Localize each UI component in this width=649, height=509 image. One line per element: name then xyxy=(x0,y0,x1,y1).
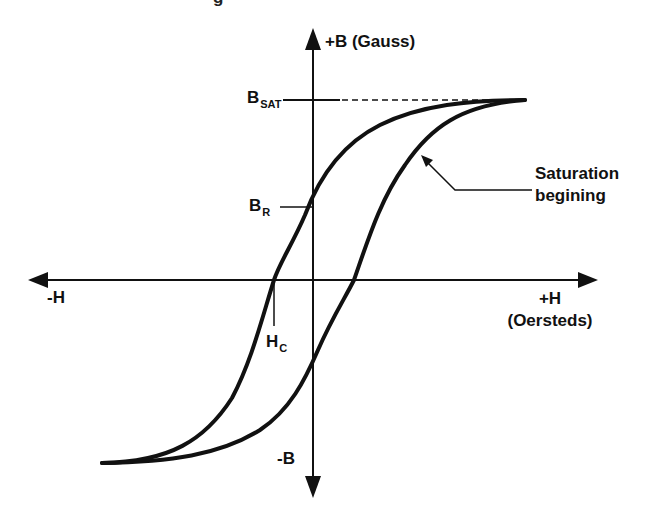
h-axis-negative-label: -H xyxy=(47,288,65,308)
b-axis-negative-label: -B xyxy=(277,449,295,469)
h-axis-positive-label: +H (Oersteds) xyxy=(500,288,600,332)
bsat-label: BSAT xyxy=(247,88,281,108)
h-axis-positive-arrow-icon xyxy=(578,272,598,288)
saturation-beginning-annotation: Saturation begining xyxy=(535,163,619,207)
hc-label: HC xyxy=(266,332,287,352)
b-axis-negative-arrow-icon xyxy=(305,476,321,498)
diagram-canvas xyxy=(0,0,649,509)
b-axis-positive-label: +B (Gauss) xyxy=(325,32,415,52)
saturation-leader-line xyxy=(425,160,532,190)
h-axis-negative-arrow-icon xyxy=(28,272,48,288)
b-axis-positive-arrow-icon xyxy=(305,28,321,50)
br-label: BR xyxy=(249,196,270,216)
